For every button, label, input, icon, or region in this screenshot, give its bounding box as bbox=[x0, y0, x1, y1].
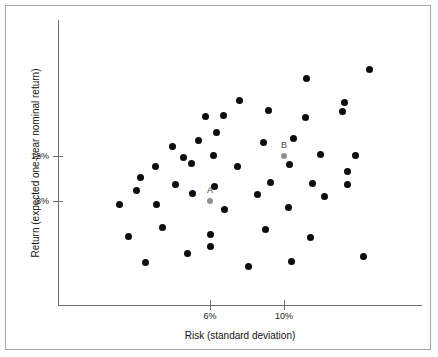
x-tick-mark bbox=[284, 300, 285, 310]
x-tick-mark bbox=[210, 300, 211, 310]
x-axis-line bbox=[58, 305, 422, 306]
y-tick-mark bbox=[53, 156, 63, 157]
scatter-plot-figure: 12%8%6%10% AB Return (expected one-year … bbox=[0, 0, 438, 357]
y-tick-mark bbox=[53, 201, 63, 202]
y-axis-title: Return (expected one-year nominal return… bbox=[24, 20, 46, 306]
y-axis-line bbox=[58, 20, 59, 306]
x-tick-label: 10% bbox=[275, 312, 293, 321]
figure-border bbox=[5, 5, 431, 350]
x-tick-label: 6% bbox=[203, 312, 216, 321]
x-axis-title: Risk (standard deviation) bbox=[58, 330, 422, 341]
